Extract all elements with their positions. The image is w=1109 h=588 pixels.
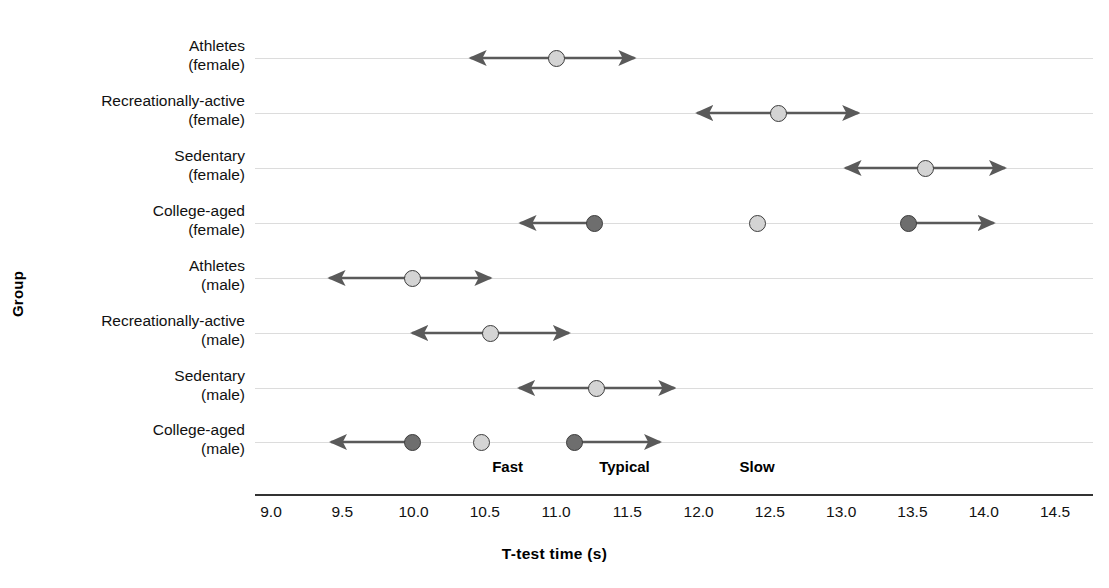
y-axis-tick-4: College-aged(female) bbox=[30, 201, 245, 239]
gridline-row-4 bbox=[255, 223, 1093, 224]
data-point-marker bbox=[566, 434, 583, 451]
x-tick-11.0: 11.0 bbox=[526, 503, 586, 521]
y-tick-group-sex: (male) bbox=[30, 330, 245, 349]
data-point-marker bbox=[586, 215, 603, 232]
y-tick-group-sex: (male) bbox=[30, 385, 245, 404]
gridline-row-8 bbox=[255, 442, 1093, 443]
chart-figure: Group Athletes(female)Recreationally-act… bbox=[0, 0, 1109, 588]
annotation-slow: Slow bbox=[697, 458, 817, 475]
gridline-row-5 bbox=[255, 278, 1093, 279]
x-tick-12.0: 12.0 bbox=[669, 503, 729, 521]
annotation-fast: Fast bbox=[448, 458, 568, 475]
data-point-marker bbox=[749, 215, 766, 232]
y-axis-tick-5: Athletes(male) bbox=[30, 256, 245, 294]
data-point-marker bbox=[588, 380, 605, 397]
y-tick-group-name: College-aged bbox=[30, 420, 245, 439]
data-point-marker bbox=[404, 270, 421, 287]
y-tick-group-name: Sedentary bbox=[30, 146, 245, 165]
data-point-marker bbox=[900, 215, 917, 232]
x-axis-line bbox=[255, 494, 1093, 496]
gridline-row-3 bbox=[255, 168, 1093, 169]
x-tick-13.0: 13.0 bbox=[811, 503, 871, 521]
y-axis-tick-2: Recreationally-active(female) bbox=[30, 91, 245, 129]
y-tick-group-sex: (male) bbox=[30, 275, 245, 294]
x-tick-12.5: 12.5 bbox=[740, 503, 800, 521]
gridline-row-6 bbox=[255, 333, 1093, 334]
y-tick-group-sex: (female) bbox=[30, 165, 245, 184]
data-point-marker bbox=[404, 434, 421, 451]
x-tick-9.5: 9.5 bbox=[312, 503, 372, 521]
y-axis-tick-3: Sedentary(female) bbox=[30, 146, 245, 184]
data-point-marker bbox=[917, 160, 934, 177]
gridline-row-7 bbox=[255, 388, 1093, 389]
x-tick-9.0: 9.0 bbox=[241, 503, 301, 521]
y-axis-tick-8: College-aged(male) bbox=[30, 420, 245, 458]
x-tick-13.5: 13.5 bbox=[882, 503, 942, 521]
data-point-marker bbox=[548, 50, 565, 67]
data-point-marker bbox=[770, 105, 787, 122]
data-point-marker bbox=[473, 434, 490, 451]
y-axis-title: Group bbox=[0, 0, 34, 588]
y-axis-tick-6: Recreationally-active(male) bbox=[30, 311, 245, 349]
y-axis-tick-7: Sedentary(male) bbox=[30, 366, 245, 404]
annotation-typical: Typical bbox=[565, 458, 685, 475]
y-tick-group-name: Recreationally-active bbox=[30, 91, 245, 110]
whisker-arrows-layer bbox=[0, 0, 1109, 588]
gridline-row-2 bbox=[255, 113, 1093, 114]
y-tick-group-name: Recreationally-active bbox=[30, 311, 245, 330]
y-tick-group-sex: (female) bbox=[30, 55, 245, 74]
y-axis-tick-1: Athletes(female) bbox=[30, 36, 245, 74]
y-tick-group-sex: (female) bbox=[30, 220, 245, 239]
y-tick-group-sex: (female) bbox=[30, 110, 245, 129]
x-tick-14.5: 14.5 bbox=[1025, 503, 1085, 521]
x-tick-10.0: 10.0 bbox=[384, 503, 444, 521]
y-tick-group-name: Athletes bbox=[30, 256, 245, 275]
x-tick-10.5: 10.5 bbox=[455, 503, 515, 521]
x-tick-11.5: 11.5 bbox=[597, 503, 657, 521]
x-tick-14.0: 14.0 bbox=[954, 503, 1014, 521]
y-tick-group-name: Sedentary bbox=[30, 366, 245, 385]
gridline-row-1 bbox=[255, 58, 1093, 59]
y-tick-group-sex: (male) bbox=[30, 439, 245, 458]
y-tick-group-name: College-aged bbox=[30, 201, 245, 220]
y-tick-group-name: Athletes bbox=[30, 36, 245, 55]
data-point-marker bbox=[482, 325, 499, 342]
x-axis-title: T-test time (s) bbox=[0, 545, 1109, 563]
